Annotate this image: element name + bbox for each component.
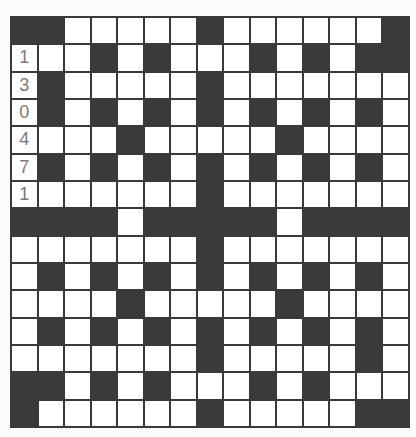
grid-cell[interactable] [277,73,302,98]
grid-cell[interactable] [118,264,143,289]
grid-cell[interactable] [330,291,355,316]
grid-cell[interactable] [171,155,196,180]
grid-cell[interactable] [145,182,170,207]
grid-cell[interactable] [383,127,408,152]
grid-cell[interactable] [330,401,355,426]
grid-cell[interactable] [39,346,64,371]
grid-cell[interactable] [65,155,90,180]
grid-cell[interactable] [357,291,382,316]
grid-cell[interactable] [251,18,276,43]
grid-cell[interactable] [145,237,170,262]
grid-cell[interactable] [118,100,143,125]
grid-cell[interactable] [251,182,276,207]
grid-cell[interactable] [65,18,90,43]
grid-cell[interactable] [330,264,355,289]
grid-cell[interactable] [304,182,329,207]
grid-cell[interactable] [118,319,143,344]
grid-cell[interactable] [92,401,117,426]
grid-cell[interactable] [171,346,196,371]
grid-cell[interactable] [383,100,408,125]
grid-cell[interactable] [118,18,143,43]
grid-cell[interactable] [304,237,329,262]
grid-cell[interactable] [118,401,143,426]
grid-cell[interactable] [251,73,276,98]
grid-cell[interactable] [118,182,143,207]
grid-cell[interactable] [39,45,64,70]
grid-cell[interactable] [65,182,90,207]
grid-cell[interactable] [198,127,223,152]
grid-cell[interactable] [277,319,302,344]
grid-cell[interactable] [145,73,170,98]
grid-cell[interactable] [357,237,382,262]
grid-cell[interactable] [118,237,143,262]
grid-cell[interactable] [171,319,196,344]
grid-cell[interactable] [92,127,117,152]
grid-cell[interactable] [92,346,117,371]
grid-cell[interactable] [171,291,196,316]
grid-cell[interactable] [277,237,302,262]
grid-cell[interactable] [383,73,408,98]
grid-cell[interactable] [12,319,37,344]
grid-cell[interactable] [224,346,249,371]
grid-cell[interactable] [171,373,196,398]
grid-cell[interactable] [224,100,249,125]
grid-cell[interactable] [171,237,196,262]
grid-cell[interactable] [145,291,170,316]
grid-cell[interactable] [224,319,249,344]
grid-cell[interactable] [12,264,37,289]
grid-cell[interactable] [224,45,249,70]
grid-cell[interactable] [39,401,64,426]
grid-cell[interactable] [145,127,170,152]
grid-cell[interactable] [224,155,249,180]
grid-cell[interactable] [251,127,276,152]
grid-cell[interactable] [277,155,302,180]
grid-cell[interactable] [39,182,64,207]
grid-cell[interactable] [171,264,196,289]
grid-cell[interactable] [198,373,223,398]
grid-cell[interactable] [92,291,117,316]
grid-cell[interactable] [383,155,408,180]
grid-cell[interactable] [304,18,329,43]
grid-cell[interactable] [171,45,196,70]
grid-cell[interactable] [277,100,302,125]
grid-cell[interactable] [304,291,329,316]
grid-cell[interactable] [65,319,90,344]
grid-cell[interactable] [145,346,170,371]
grid-cell[interactable] [383,319,408,344]
grid-cell[interactable] [330,18,355,43]
grid-cell[interactable] [118,45,143,70]
grid-cell[interactable] [277,346,302,371]
grid-cell[interactable] [39,237,64,262]
grid-cell[interactable] [304,401,329,426]
grid-cell[interactable] [92,237,117,262]
grid-cell[interactable] [224,18,249,43]
grid-cell[interactable] [224,127,249,152]
grid-cell[interactable] [277,209,302,234]
grid-cell[interactable] [251,291,276,316]
grid-cell[interactable] [224,73,249,98]
grid-cell[interactable] [330,100,355,125]
grid-cell[interactable] [224,237,249,262]
grid-cell[interactable] [224,373,249,398]
grid-cell[interactable] [118,373,143,398]
grid-cell[interactable] [65,73,90,98]
grid-cell[interactable] [251,237,276,262]
grid-cell[interactable] [277,18,302,43]
grid-cell[interactable] [330,237,355,262]
grid-cell[interactable] [277,401,302,426]
grid-cell[interactable] [357,18,382,43]
grid-cell[interactable] [171,401,196,426]
grid-cell[interactable] [330,45,355,70]
grid-cell[interactable] [383,346,408,371]
grid-cell[interactable] [277,373,302,398]
grid-cell[interactable] [171,127,196,152]
grid-cell[interactable] [65,100,90,125]
grid-cell[interactable] [65,346,90,371]
grid-cell[interactable] [198,291,223,316]
grid-cell[interactable] [277,45,302,70]
grid-cell[interactable] [145,401,170,426]
grid-cell[interactable] [65,237,90,262]
grid-cell[interactable] [357,127,382,152]
grid-cell[interactable] [171,73,196,98]
grid-cell[interactable] [304,346,329,371]
